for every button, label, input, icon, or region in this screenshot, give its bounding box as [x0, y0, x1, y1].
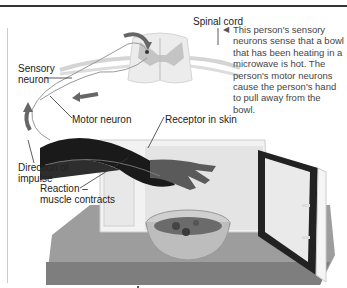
label-receptor-in-skin: Receptor in skin [165, 114, 237, 125]
caption-text: This person's sensory neurons sense that… [233, 24, 344, 115]
label-motor-neuron: Motor neuron [72, 114, 131, 125]
caption-pointer-icon: ◀ [223, 24, 229, 35]
label-reaction-line2: muscle contracts [40, 194, 115, 205]
label-sensory-neuron-line1: Sensory [18, 63, 55, 74]
label-sensory-neuron-line2: neuron [18, 74, 49, 85]
label-reaction-line1: Reaction – [40, 183, 88, 194]
figure-caption: ◀ This person's sensory neurons sense th… [233, 24, 345, 115]
label-direction-line1: Direction of [18, 162, 69, 173]
